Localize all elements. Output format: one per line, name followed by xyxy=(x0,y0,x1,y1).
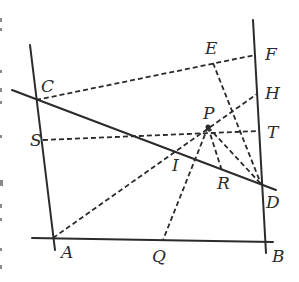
point-label-c: C xyxy=(41,76,54,96)
segment-PD xyxy=(208,127,261,184)
segment-AH xyxy=(53,94,257,238)
point-label-h: H xyxy=(264,83,281,103)
point-label-s: S xyxy=(30,130,42,150)
point-marker-p xyxy=(206,125,211,130)
segment-ST xyxy=(43,131,259,140)
left-edge-text-fragments xyxy=(0,18,3,269)
segment-CF xyxy=(36,55,255,100)
point-label-f: F xyxy=(264,44,278,64)
point-label-e: E xyxy=(204,38,218,58)
point-label-i: I xyxy=(171,155,179,175)
geometry-diagram: ABCDEFHTSPIRQ xyxy=(0,0,299,282)
point-label-q: Q xyxy=(152,246,166,266)
point-label-t: T xyxy=(267,122,280,142)
point-labels: ABCDEFHTSPIRQ xyxy=(30,38,285,266)
point-label-p: P xyxy=(202,103,215,123)
solid-lines xyxy=(12,20,276,253)
point-label-r: R xyxy=(216,173,230,193)
point-label-a: A xyxy=(59,242,73,262)
point-label-b: B xyxy=(271,246,285,266)
point-label-d: D xyxy=(265,192,280,212)
dashed-lines xyxy=(36,55,261,240)
